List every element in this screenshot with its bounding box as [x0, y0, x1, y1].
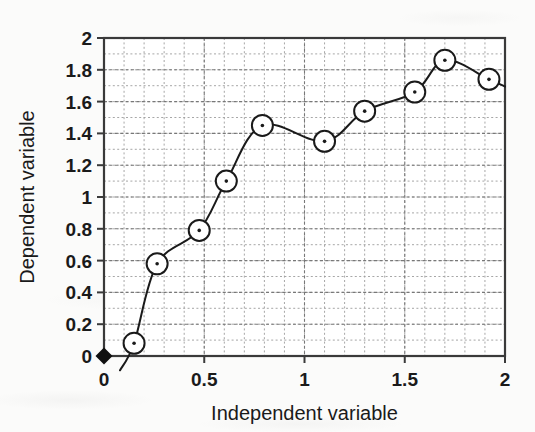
x-tick-label: 0.5 — [191, 369, 218, 390]
y-tick-labels: 00.20.40.60.811.21.41.61.82 — [66, 28, 93, 367]
y-tick-label: 1.8 — [66, 60, 92, 81]
y-axis-title: Dependent variable — [16, 110, 38, 283]
chart-figure: 00.20.40.60.811.21.41.61.8200.511.52Inde… — [0, 0, 535, 432]
y-tick-label: 1.2 — [66, 155, 92, 176]
y-tick-label: 0 — [81, 346, 92, 367]
y-tick-label: 0.6 — [66, 251, 92, 272]
y-tick-label: 2 — [81, 28, 92, 49]
data-point-center — [132, 341, 136, 345]
y-tick-label: 0.8 — [66, 219, 92, 240]
y-tick-label: 1.4 — [66, 123, 93, 144]
data-point-center — [443, 58, 447, 62]
data-point-center — [197, 229, 201, 233]
y-tick-label: 0.4 — [66, 282, 93, 303]
data-point-center — [363, 109, 367, 113]
data-point-center — [155, 262, 159, 266]
data-point-center — [261, 124, 265, 128]
line-chart: 00.20.40.60.811.21.41.61.8200.511.52Inde… — [0, 0, 535, 432]
y-tick-label: 1 — [81, 187, 92, 208]
x-tick-labels: 00.511.52 — [99, 369, 511, 390]
x-tick-label: 0 — [99, 369, 110, 390]
data-point-center — [323, 140, 327, 144]
y-tick-label: 1.6 — [66, 92, 92, 113]
x-axis-title: Independent variable — [211, 402, 398, 424]
y-tick-label: 0.2 — [66, 314, 92, 335]
data-point-center — [413, 90, 417, 94]
x-tick-label: 1.5 — [392, 369, 419, 390]
x-tick-label: 2 — [500, 369, 511, 390]
data-point-center — [225, 179, 229, 183]
data-point-center — [487, 78, 491, 82]
x-tick-label: 1 — [299, 369, 310, 390]
